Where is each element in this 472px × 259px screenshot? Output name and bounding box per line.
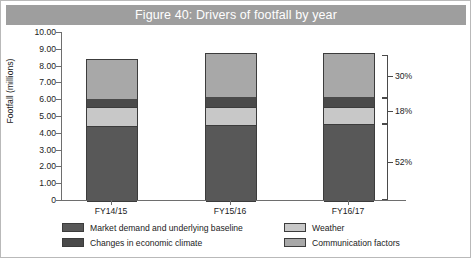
y-axis-tick bbox=[56, 116, 61, 117]
plot-area bbox=[62, 32, 405, 200]
y-axis-tick-label: 8.00 bbox=[4, 61, 56, 71]
bar-segment bbox=[324, 54, 374, 97]
x-axis-tick-label: FY14/15 bbox=[66, 206, 156, 216]
y-axis-tick bbox=[56, 99, 61, 100]
bar-segment bbox=[324, 108, 374, 126]
y-axis-tick-label: 10.00 bbox=[4, 27, 56, 37]
bar-segment bbox=[206, 54, 256, 97]
y-axis-tick-label: 3.00 bbox=[4, 145, 56, 155]
y-axis-tick bbox=[56, 32, 61, 33]
legend-label: Market demand and underlying baseline bbox=[90, 222, 243, 234]
bar-segment bbox=[324, 97, 374, 108]
y-axis-tick-label: 9.00 bbox=[4, 44, 56, 54]
page-title: Figure 40: Drivers of footfall by year bbox=[6, 5, 466, 25]
percentage-label: 18% bbox=[395, 106, 412, 116]
bracket-stem bbox=[388, 162, 393, 163]
legend-swatch bbox=[284, 238, 306, 247]
bar-fy1516[interactable] bbox=[205, 53, 257, 200]
bar-segment bbox=[87, 60, 137, 99]
bracket-stem bbox=[388, 111, 393, 112]
bar-segment bbox=[206, 126, 256, 202]
y-axis-tick bbox=[56, 82, 61, 83]
y-axis-labels: 10.009.008.007.006.005.004.003.002.001.0… bbox=[0, 0, 56, 259]
y-axis-tick bbox=[56, 49, 61, 50]
percentage-label: 30% bbox=[395, 71, 412, 81]
y-axis-tick bbox=[56, 66, 61, 67]
legend-swatch bbox=[62, 238, 84, 247]
y-axis-tick bbox=[56, 166, 61, 167]
bar-segment bbox=[87, 108, 137, 127]
bar-segment bbox=[206, 97, 256, 108]
y-axis-tick bbox=[56, 183, 61, 184]
y-axis-tick-label: 0 bbox=[4, 195, 56, 205]
legend-label: Weather bbox=[312, 222, 344, 234]
figure-container: Figure 40: Drivers of footfall by year F… bbox=[0, 0, 472, 259]
x-axis-tick bbox=[230, 200, 231, 205]
y-axis-tick-label: 5.00 bbox=[4, 111, 56, 121]
chart-legend: Market demand and underlying baselineWea… bbox=[62, 222, 462, 252]
y-axis-tick bbox=[56, 133, 61, 134]
x-axis-tick bbox=[348, 200, 349, 205]
y-axis-tick bbox=[56, 200, 61, 201]
bar-segment bbox=[324, 125, 374, 202]
figure-title-bar: Figure 40: Drivers of footfall by year bbox=[6, 5, 466, 25]
y-axis-tick-label: 1.00 bbox=[4, 178, 56, 188]
legend-swatch bbox=[284, 223, 306, 232]
percentage-label: 52% bbox=[395, 157, 412, 167]
legend-label: Changes in economic climate bbox=[90, 237, 202, 249]
y-axis-tick-label: 2.00 bbox=[4, 161, 56, 171]
bar-segment bbox=[206, 108, 256, 126]
y-axis-tick-label: 7.00 bbox=[4, 77, 56, 87]
bar-segment bbox=[87, 99, 137, 108]
x-axis-tick-label: FY15/16 bbox=[185, 206, 275, 216]
y-axis-tick bbox=[56, 150, 61, 151]
legend-swatch bbox=[62, 223, 84, 232]
legend-label: Communication factors bbox=[312, 237, 400, 249]
bar-fy1617[interactable] bbox=[323, 53, 375, 200]
bracket-stem bbox=[388, 76, 393, 77]
bar-fy1415[interactable] bbox=[86, 59, 138, 200]
x-axis-tick bbox=[111, 200, 112, 205]
bar-segment bbox=[87, 127, 137, 202]
y-axis-tick-label: 4.00 bbox=[4, 128, 56, 138]
y-axis-tick-label: 6.00 bbox=[4, 94, 56, 104]
x-axis-tick-label: FY16/17 bbox=[303, 206, 393, 216]
